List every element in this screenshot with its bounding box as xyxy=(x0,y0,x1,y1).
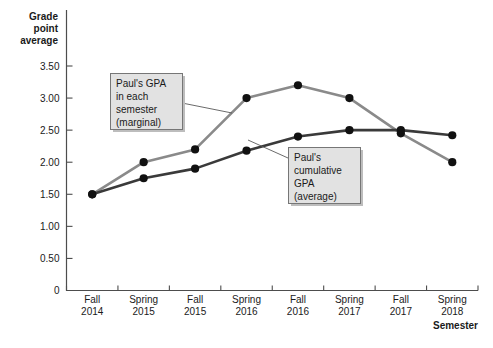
y-tick-label: 3.00 xyxy=(40,93,60,104)
data-point-marker xyxy=(448,131,456,139)
y-tick-label: 0.50 xyxy=(40,253,60,264)
data-point-marker xyxy=(294,81,302,89)
x-axis-category-label: Spring xyxy=(335,294,364,305)
x-axis-category-label: 2017 xyxy=(390,306,413,317)
x-axis-category-label: Fall xyxy=(187,294,203,305)
data-point-marker xyxy=(397,126,405,134)
annotation-text-line: Paul's GPA xyxy=(116,78,166,89)
x-axis-category-label: Spring xyxy=(232,294,261,305)
y-tick-label: 3.50 xyxy=(40,61,60,72)
x-axis-category-label: 2018 xyxy=(441,306,464,317)
x-axis-category-label: Fall xyxy=(290,294,306,305)
data-point-marker xyxy=(345,94,353,102)
x-axis-ticks xyxy=(67,286,479,291)
x-axis-category-label: 2015 xyxy=(133,306,156,317)
data-point-marker xyxy=(242,94,250,102)
annotation-text-line: GPA xyxy=(294,178,315,189)
annotation-text-line: Paul's xyxy=(294,152,321,163)
data-point-marker xyxy=(448,158,456,166)
y-tick-label: 2.00 xyxy=(40,157,60,168)
x-axis-category-label: Spring xyxy=(129,294,158,305)
annotation-text-line: (marginal) xyxy=(116,117,161,128)
x-axis-category-labels: Fall2014Spring2015Fall2015Spring2016Fall… xyxy=(81,294,467,317)
annotation-text-line: semester xyxy=(116,104,158,115)
annotation-text-line: (average) xyxy=(294,191,337,202)
annotation-text-line: in each xyxy=(116,91,148,102)
x-axis-category-label: Fall xyxy=(84,294,100,305)
y-axis-title: Grade point average xyxy=(20,11,58,46)
x-axis-category-label: Spring xyxy=(438,294,467,305)
y-tick-label: 1.00 xyxy=(40,221,60,232)
y-axis-title-line-3: average xyxy=(20,35,58,46)
axis-lines xyxy=(67,10,479,291)
data-point-marker xyxy=(140,174,148,182)
data-point-marker xyxy=(345,126,353,134)
x-axis-category-label: 2017 xyxy=(338,306,361,317)
data-point-marker xyxy=(140,158,148,166)
annotation-text-line: cumulative xyxy=(294,165,342,176)
y-tick-label: 0 xyxy=(54,285,60,296)
y-axis-title-line-1: Grade xyxy=(29,11,58,22)
x-axis-category-label: 2014 xyxy=(81,306,104,317)
x-axis-category-label: 2015 xyxy=(184,306,207,317)
gpa-line-chart: Grade point average 00.501.001.502.002.5… xyxy=(0,0,493,348)
x-axis-category-label: Fall xyxy=(393,294,409,305)
data-point-marker xyxy=(294,132,302,140)
y-axis-ticks: 00.501.001.502.002.503.003.50 xyxy=(40,61,72,297)
y-tick-label: 2.50 xyxy=(40,125,60,136)
data-point-marker xyxy=(242,147,250,155)
chart-container: Grade point average 00.501.001.502.002.5… xyxy=(0,0,493,348)
y-axis-title-line-2: point xyxy=(34,23,59,34)
data-point-marker xyxy=(191,145,199,153)
x-axis-category-label: 2016 xyxy=(235,306,258,317)
x-axis-title: Semester xyxy=(433,320,478,331)
annotation-leader-line xyxy=(182,103,232,113)
y-tick-label: 1.50 xyxy=(40,189,60,200)
data-point-marker xyxy=(88,190,96,198)
data-point-marker xyxy=(191,165,199,173)
annotation-boxes: Paul's GPAin eachsemester(marginal)Paul'… xyxy=(111,74,364,207)
x-axis-category-label: 2016 xyxy=(287,306,310,317)
